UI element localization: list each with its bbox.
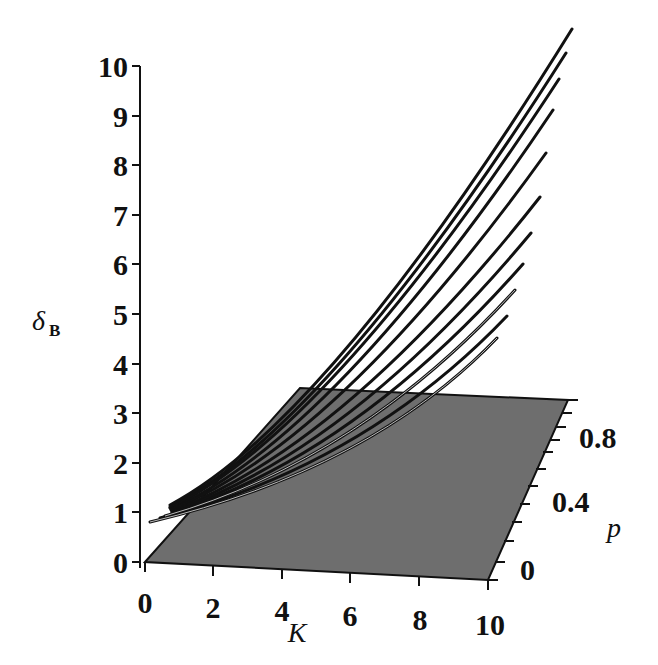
z-tick-7: 7 <box>113 199 128 232</box>
z-tick-8: 8 <box>113 149 128 182</box>
p-tick-0-8: 0.8 <box>579 421 617 454</box>
z-tick-9: 9 <box>113 100 128 133</box>
p-tick-0-4: 0.4 <box>552 485 590 518</box>
k-tick-8: 8 <box>413 603 428 636</box>
z-axis-label-subscript: B <box>49 321 60 340</box>
z-tick-3: 3 <box>113 397 128 430</box>
z-tick-1: 1 <box>113 496 128 529</box>
z-tick-5: 5 <box>113 298 128 331</box>
z-tick-2: 2 <box>113 447 128 480</box>
z-tick-6: 6 <box>113 248 128 281</box>
k-axis-label: K <box>287 617 308 648</box>
k-tick-2: 2 <box>206 591 221 624</box>
z-axis-label: δ <box>32 305 46 336</box>
k-tick-10: 10 <box>475 608 505 641</box>
z-axis: 0 1 2 3 4 5 6 7 8 9 10 δ B <box>32 50 140 579</box>
k-tick-6: 6 <box>343 599 358 632</box>
chart-3d: 0 1 2 3 4 5 6 7 8 9 10 δ B 0 2 4 6 8 10 … <box>0 0 658 665</box>
k-tick-0: 0 <box>138 586 153 619</box>
z-tick-0: 0 <box>113 546 128 579</box>
p-tick-0: 0 <box>520 553 535 586</box>
z-tick-10: 10 <box>98 50 128 83</box>
p-axis-label: p <box>605 512 621 543</box>
z-tick-4: 4 <box>113 348 128 381</box>
